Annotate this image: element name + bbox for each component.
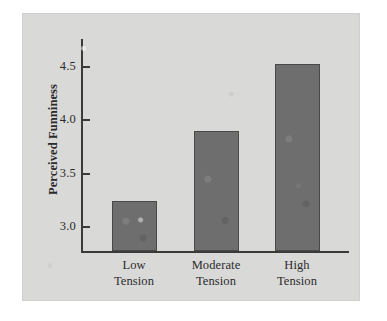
y-tick-mark-2 [83,173,90,175]
y-axis-title: Perceived Funniness [46,50,61,230]
y-tick-label-2: 3.5 [60,167,76,180]
x-tick-label-high-tension: High Tension [242,257,352,289]
bar-moderate-tension [194,131,239,251]
y-tick-label-3: 4.0 [60,113,76,126]
x-tick-label-high-tension-line2: Tension [242,273,352,289]
y-tick-label-1: 3.0 [60,220,76,233]
x-axis-line [81,251,349,253]
x-tick-label-high-tension-line1: High [284,258,309,272]
y-tick-label-4: 4.5 [60,60,76,73]
y-tick-mark-4 [83,66,90,68]
plot-area: 4.5 4.0 3.5 3.0 Perceived Funniness Low … [23,14,359,300]
x-tick-label-moderate-tension-line1: Moderate [192,258,241,272]
y-axis-line [81,39,83,252]
y-tick-mark-1 [83,226,90,228]
x-tick-label-low-tension-line1: Low [122,258,145,272]
bar-low-tension [112,201,157,251]
chart-figure-panel: 4.5 4.0 3.5 3.0 Perceived Funniness Low … [22,13,360,301]
y-tick-mark-3 [83,119,90,121]
bar-high-tension [275,64,320,251]
